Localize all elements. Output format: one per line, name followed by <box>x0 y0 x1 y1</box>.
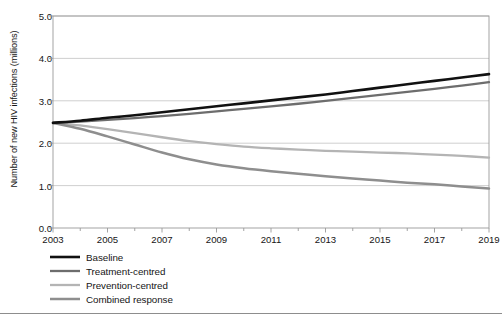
x-axis-tick-label: 2019 <box>478 234 499 245</box>
legend-label: Prevention-centred <box>86 280 168 291</box>
x-axis-tick-label: 2015 <box>369 234 390 245</box>
legend-swatch-line <box>49 265 81 277</box>
x-axis-tick-label: 2005 <box>97 234 118 245</box>
legend-item: Prevention-centred <box>49 278 173 292</box>
legend-label: Treatment-centred <box>86 266 165 277</box>
chart-figure: Number of new HIV infections (millions) … <box>0 0 502 325</box>
x-axis-tick-label: 2003 <box>42 234 63 245</box>
legend-swatch-line <box>49 279 81 291</box>
footer-divider <box>0 313 502 314</box>
legend-label: Combined response <box>86 294 173 305</box>
plot-frame <box>53 16 489 228</box>
legend-item: Combined response <box>49 292 173 306</box>
legend-swatch-line <box>49 293 81 305</box>
legend-swatch-line <box>49 251 81 263</box>
x-axis-tick-label: 2007 <box>151 234 172 245</box>
x-axis-tick-label: 2009 <box>206 234 227 245</box>
series-line-combined-response <box>53 123 489 189</box>
x-axis-tick-label: 2011 <box>261 234 282 245</box>
series-line-baseline <box>53 74 489 123</box>
legend-item: Treatment-centred <box>49 264 173 278</box>
legend-label: Baseline <box>86 252 123 263</box>
x-axis-tick-label: 2017 <box>424 234 445 245</box>
legend-item: Baseline <box>49 250 173 264</box>
chart-legend: BaselineTreatment-centredPrevention-cent… <box>49 250 173 306</box>
x-axis-tick-label: 2013 <box>315 234 336 245</box>
